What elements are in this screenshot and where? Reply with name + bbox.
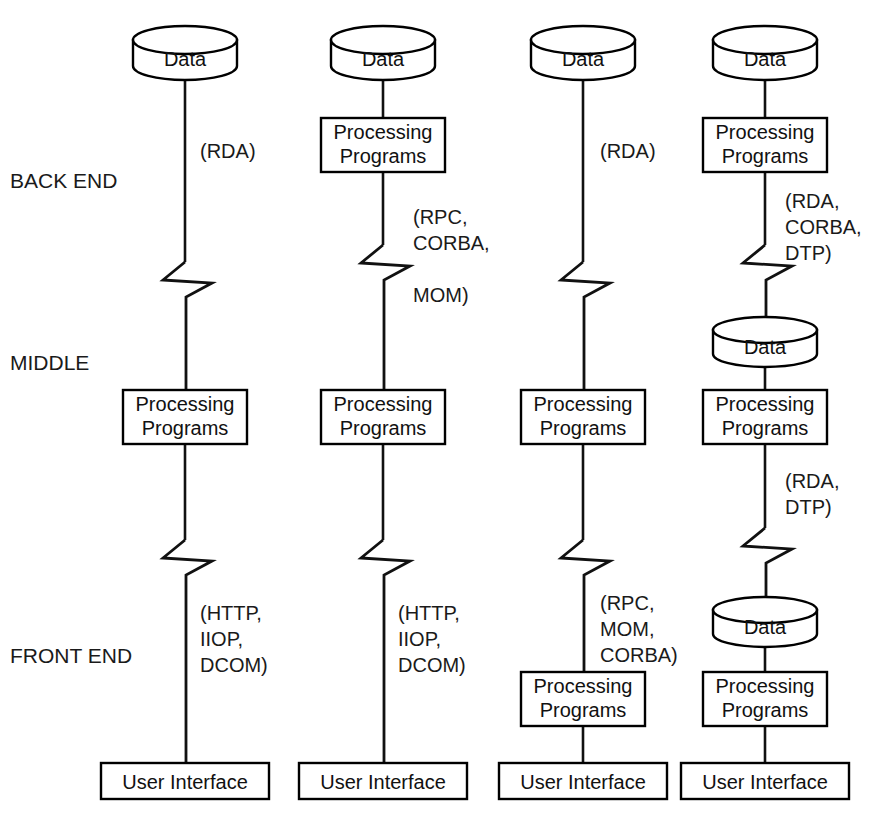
node-data-c2: Data <box>331 26 435 80</box>
zigzag-c1-middle-to-front <box>163 540 212 763</box>
node-processing-programs-c4-middle: Processing Programs <box>703 390 827 444</box>
diagram-canvas: BACK END MIDDLE FRONT END Data Processin… <box>0 0 874 819</box>
node-label-processing-line1: Processing <box>334 393 433 415</box>
node-label-processing-line2: Programs <box>540 699 627 721</box>
protocol-label-c2-http-line2: IIOP, <box>398 628 441 650</box>
node-label-processing-line2: Programs <box>722 417 809 439</box>
node-label-user-interface: User Interface <box>122 771 248 793</box>
protocol-label-c1-http-line3: DCOM) <box>200 654 268 676</box>
protocol-label-c3-rpc-line3: CORBA) <box>600 644 678 666</box>
node-label-data: Data <box>562 48 605 70</box>
node-processing-programs-c4-back: Processing Programs <box>703 118 827 172</box>
tier-label-middle: MIDDLE <box>10 351 89 374</box>
protocol-label-c3-rpc-line2: MOM, <box>600 618 654 640</box>
node-user-interface-c2: User Interface <box>299 763 467 799</box>
protocol-label-c1-http-line2: IIOP, <box>200 628 243 650</box>
protocol-label-c4-dtp-line2: DTP) <box>785 496 832 518</box>
node-label-processing-line1: Processing <box>534 393 633 415</box>
node-label-processing-line2: Programs <box>340 145 427 167</box>
column-4: Data Processing Programs Data Processing… <box>681 26 862 799</box>
zigzag-c4-middle-to-front <box>743 528 792 598</box>
node-user-interface-c1: User Interface <box>101 763 269 799</box>
tier-label-back-end: BACK END <box>10 169 117 192</box>
column-2: Data Processing Programs Processing Prog… <box>299 26 490 799</box>
node-label-processing-line2: Programs <box>340 417 427 439</box>
node-label-user-interface: User Interface <box>520 771 646 793</box>
node-label-processing-line1: Processing <box>334 121 433 143</box>
tier-label-front-end: FRONT END <box>10 644 132 667</box>
column-3: Data Processing Programs Processing Prog… <box>499 26 678 799</box>
protocol-label-c2-rpc-line1: (RPC, <box>413 206 467 228</box>
protocol-label-c3-rda: (RDA) <box>600 140 656 162</box>
zigzag-c2-middle-to-front <box>361 540 410 763</box>
zigzag-c2-back-to-middle <box>361 245 410 390</box>
node-label-processing-line1: Processing <box>534 675 633 697</box>
node-processing-programs-c3-front: Processing Programs <box>521 672 645 726</box>
node-data-c4-middle: Data <box>713 317 817 367</box>
node-label-processing-line2: Programs <box>722 699 809 721</box>
node-processing-programs-c4-front: Processing Programs <box>703 672 827 726</box>
node-data-c1: Data <box>133 26 237 80</box>
column-1: Data Processing Programs User Interface … <box>101 26 269 799</box>
node-data-c4-front: Data <box>713 597 817 647</box>
protocol-label-c1-rda: (RDA) <box>200 140 256 162</box>
node-label-processing-line2: Programs <box>722 145 809 167</box>
node-user-interface-c4: User Interface <box>681 763 849 799</box>
node-label-data: Data <box>362 48 405 70</box>
node-label-processing-line2: Programs <box>540 417 627 439</box>
architecture-diagram: BACK END MIDDLE FRONT END Data Processin… <box>0 0 874 819</box>
node-label-processing-line1: Processing <box>716 393 815 415</box>
protocol-label-c4-rda-line2: CORBA, <box>785 216 862 238</box>
protocol-label-c2-http-line1: (HTTP, <box>398 602 460 624</box>
protocol-label-c3-rpc-line1: (RPC, <box>600 592 654 614</box>
protocol-label-c2-rpc-line3: MOM) <box>413 284 469 306</box>
protocol-label-c4-rda-line1: (RDA, <box>785 190 839 212</box>
protocol-label-c2-http-line3: DCOM) <box>398 654 466 676</box>
node-label-data: Data <box>744 336 787 358</box>
node-processing-programs-c3-middle: Processing Programs <box>521 390 645 444</box>
node-label-user-interface: User Interface <box>702 771 828 793</box>
protocol-label-c1-http-line1: (HTTP, <box>200 602 262 624</box>
protocol-label-c2-rpc-line2: CORBA, <box>413 232 490 254</box>
node-processing-programs-c1-middle: Processing Programs <box>123 390 247 444</box>
protocol-label-c4-rda-line3: DTP) <box>785 242 832 264</box>
protocol-label-c4-dtp-line1: (RDA, <box>785 470 839 492</box>
node-processing-programs-c2-middle: Processing Programs <box>321 390 445 444</box>
node-label-processing-line1: Processing <box>716 675 815 697</box>
node-label-processing-line1: Processing <box>716 121 815 143</box>
node-data-c4-back: Data <box>713 26 817 80</box>
node-label-data: Data <box>744 48 787 70</box>
node-label-data: Data <box>744 616 787 638</box>
node-processing-programs-c2-back: Processing Programs <box>321 118 445 172</box>
zigzag-c3-back-to-middle <box>561 262 610 390</box>
node-data-c3: Data <box>531 26 635 80</box>
node-label-processing-line1: Processing <box>136 393 235 415</box>
node-label-data: Data <box>164 48 207 70</box>
node-user-interface-c3: User Interface <box>499 763 667 799</box>
node-label-processing-line2: Programs <box>142 417 229 439</box>
zigzag-c1-back-to-middle <box>163 262 212 390</box>
node-label-user-interface: User Interface <box>320 771 446 793</box>
